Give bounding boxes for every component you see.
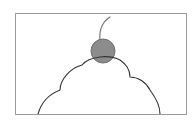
illustration-canvas: [0, 0, 193, 123]
cherry-icon: [91, 39, 115, 63]
cherry-cream-drawing: [0, 0, 193, 123]
